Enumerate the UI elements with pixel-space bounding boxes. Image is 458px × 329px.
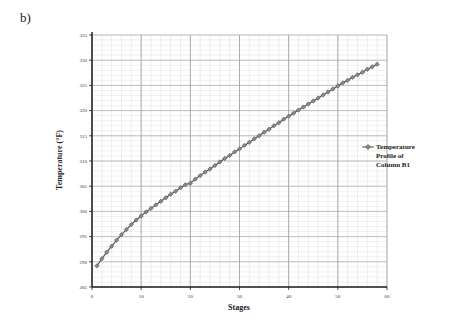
legend-label-line-2: Profile of: [376, 152, 404, 160]
y-tick-label: 300: [80, 209, 88, 214]
y-axis-ticks: 285290295300305310315320325330335: [80, 33, 93, 290]
x-tick-label: 10: [139, 294, 145, 299]
y-axis-title: Temperature (°F): [55, 130, 64, 190]
y-tick-label: 325: [80, 83, 88, 88]
x-tick-label: 40: [286, 294, 292, 299]
x-axis-title: Stages: [228, 303, 250, 312]
legend-marker-icon: [362, 145, 374, 150]
legend-label-line-3: Column B1: [376, 161, 411, 169]
y-tick-label: 310: [80, 159, 88, 164]
x-tick-label: 30: [237, 294, 243, 299]
x-tick-label: 20: [188, 294, 194, 299]
data-point-marker: [375, 62, 379, 66]
y-tick-label: 335: [80, 33, 88, 38]
y-tick-label: 285: [80, 285, 88, 290]
y-tick-label: 305: [80, 184, 88, 189]
x-tick-label: 50: [335, 294, 341, 299]
data-series: [95, 62, 380, 268]
line-chart: 0102030405060 28529029530030531031532032…: [0, 0, 458, 329]
y-tick-label: 315: [80, 134, 88, 139]
y-tick-label: 330: [80, 58, 88, 63]
series-line: [97, 64, 377, 266]
y-tick-label: 320: [80, 108, 88, 113]
x-axis-ticks: 0102030405060: [91, 287, 390, 299]
data-point-marker: [355, 73, 359, 77]
y-tick-label: 290: [80, 260, 88, 265]
legend-label-line-1: Temperature: [376, 143, 415, 151]
chart-grid: [92, 35, 387, 287]
x-tick-label: 0: [91, 294, 94, 299]
y-tick-label: 295: [80, 234, 88, 239]
x-tick-label: 60: [385, 294, 391, 299]
